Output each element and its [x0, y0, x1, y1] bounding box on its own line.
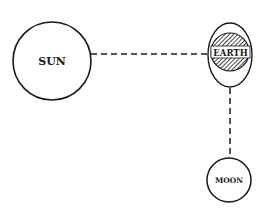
sun-label: SUN: [38, 55, 66, 68]
earth-label: EARTH: [213, 48, 247, 58]
moon-body: MOON: [207, 158, 251, 202]
earth-body: EARTH: [208, 23, 252, 87]
moon-label: MOON: [215, 176, 243, 185]
sun-body: SUN: [13, 22, 91, 100]
sun-earth-moon-diagram: SUN EARTH MOON: [0, 0, 266, 216]
